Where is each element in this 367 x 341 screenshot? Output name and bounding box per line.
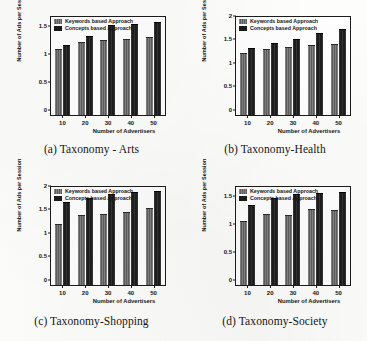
x-tick-mark <box>270 285 271 288</box>
bar-group <box>285 17 300 115</box>
y-axis-label: Number of Ads per Session <box>201 146 207 244</box>
x-tick: 10 <box>239 117 256 126</box>
y-tick-label: 2 <box>229 13 232 19</box>
bar-keywords <box>285 47 292 115</box>
x-tick-mark <box>316 285 317 288</box>
legend: Keywords based Approach Concepts based A… <box>54 189 133 202</box>
bar-keywords <box>123 39 130 115</box>
x-tick: 40 <box>122 117 139 126</box>
y-tick-label: 0 <box>44 107 47 113</box>
bar-concepts <box>248 48 255 115</box>
bar-keywords <box>55 49 62 115</box>
legend-label-concepts: Concepts based Approach <box>65 196 132 201</box>
y-tick-label: 1 <box>44 51 47 57</box>
bar-keywords <box>55 224 62 285</box>
legend-label-keywords: Keywords based Approach <box>250 19 318 24</box>
x-tick-label: 50 <box>330 290 347 296</box>
bar-group <box>78 187 93 285</box>
x-tick-mark <box>85 285 86 288</box>
legend-label-concepts: Concepts based Approach <box>65 26 132 31</box>
y-tick-label: 1.5 <box>39 23 47 29</box>
bar-series-container <box>51 187 165 285</box>
bar-group <box>78 17 93 115</box>
x-tick-label: 10 <box>239 120 256 126</box>
figure-grid: Number of Ads per Session Keywords based… <box>0 0 367 341</box>
legend-swatch-concepts-icon <box>54 26 62 31</box>
plot-area-a: Keywords based Approach Concepts based A… <box>50 16 166 116</box>
x-tick-mark <box>108 285 109 288</box>
legend-item-concepts: Concepts based Approach <box>54 26 133 31</box>
legend-item-concepts: Concepts based Approach <box>239 26 318 31</box>
bar-concepts <box>293 39 300 115</box>
x-tick-mark <box>270 115 271 118</box>
x-tick: 20 <box>262 117 279 126</box>
panel-caption: (c) Taxonomy-Shopping <box>0 315 183 327</box>
x-tick-mark <box>62 285 63 288</box>
x-tick-label: 50 <box>145 290 162 296</box>
bar-keywords <box>263 214 270 285</box>
y-tick-label: 2 <box>44 183 47 189</box>
bar-group <box>123 187 138 285</box>
chart-b: Number of Ads per Session Keywords based… <box>183 0 367 141</box>
x-tick-mark <box>339 285 340 288</box>
x-axis-label: Number of Advertisers <box>86 298 162 304</box>
x-tick: 20 <box>262 287 279 296</box>
x-tick-mark <box>131 285 132 288</box>
x-tick-label: 30 <box>284 290 301 296</box>
x-tick: 50 <box>330 287 347 296</box>
x-tick-label: 40 <box>122 120 139 126</box>
legend: Keywords based Approach Concepts based A… <box>239 19 318 32</box>
bar-keywords <box>240 221 247 285</box>
x-tick: 20 <box>77 117 94 126</box>
bar-keywords <box>308 45 315 115</box>
x-tick-label: 30 <box>284 120 301 126</box>
bar-group <box>100 187 115 285</box>
legend-swatch-concepts-icon <box>54 196 62 201</box>
y-axis-label: Number of Ads per Session <box>201 0 207 74</box>
x-tick: 30 <box>99 117 116 126</box>
bar-keywords <box>100 40 107 115</box>
bar-keywords <box>100 214 107 285</box>
legend-label-concepts: Concepts based Approach <box>250 26 317 31</box>
legend-item-keywords: Keywords based Approach <box>54 189 133 194</box>
x-tick-mark <box>108 115 109 118</box>
bar-group <box>308 17 323 115</box>
bar-keywords <box>146 37 153 115</box>
x-tick-label: 10 <box>54 290 71 296</box>
y-tick-label: 1 <box>229 60 232 66</box>
bar-keywords <box>78 215 85 285</box>
x-tick-label: 30 <box>99 120 116 126</box>
x-tick-mark <box>339 115 340 118</box>
y-tick-label: 0 <box>229 277 232 283</box>
x-tick-mark <box>293 115 294 118</box>
legend-swatch-concepts-icon <box>239 196 247 201</box>
bar-concepts <box>271 43 278 115</box>
legend-label-keywords: Keywords based Approach <box>65 19 133 24</box>
y-tick-label: 1.5 <box>224 193 232 199</box>
y-tick-label: 0.5 <box>39 79 47 85</box>
bar-concepts <box>316 193 323 285</box>
x-tick-label: 20 <box>77 120 94 126</box>
bar-group <box>55 187 70 285</box>
x-tick-mark <box>293 285 294 288</box>
x-tick-label: 10 <box>54 120 71 126</box>
x-tick: 50 <box>330 117 347 126</box>
bar-group <box>123 17 138 115</box>
legend: Keywords based Approach Concepts based A… <box>54 19 133 32</box>
x-tick: 30 <box>99 287 116 296</box>
y-tick-label: 0.5 <box>224 249 232 255</box>
y-tick-label: 1 <box>229 221 232 227</box>
x-tick-mark <box>154 285 155 288</box>
y-tick-label: 0 <box>229 107 232 113</box>
y-tick-label: 1 <box>44 230 47 236</box>
x-tick-label: 20 <box>262 120 279 126</box>
x-tick: 40 <box>307 117 324 126</box>
chart-d: Number of Ads per Session Keywords based… <box>183 170 367 311</box>
bar-group <box>331 17 346 115</box>
x-tick-mark <box>247 285 248 288</box>
x-tick-label: 50 <box>330 120 347 126</box>
x-tick-label: 20 <box>77 290 94 296</box>
x-tick: 10 <box>54 117 71 126</box>
bar-concepts <box>154 22 161 115</box>
panel-c: Number of Ads per Session Keywords based… <box>0 170 183 341</box>
